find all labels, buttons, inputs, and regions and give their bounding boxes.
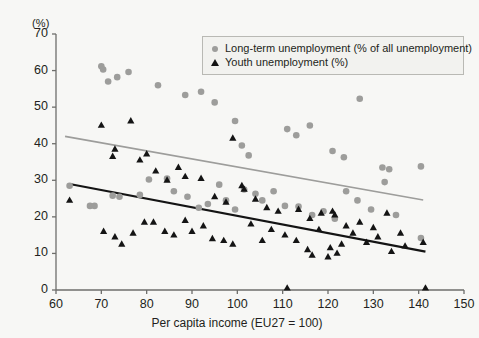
data-point-triangle	[150, 218, 157, 224]
data-point-triangle	[333, 249, 340, 255]
data-point-triangle	[66, 196, 73, 202]
data-point-circle	[307, 122, 314, 129]
data-point-circle	[100, 66, 107, 73]
y-tick-label: 30	[18, 172, 48, 186]
y-tick-label: 20	[18, 209, 48, 223]
legend-label-long-term: Long-term unemployment (% of all unemplo…	[225, 42, 472, 54]
data-point-triangle	[252, 195, 259, 201]
data-point-circle	[381, 179, 388, 186]
data-point-circle	[284, 126, 291, 133]
data-point-triangle	[220, 237, 227, 243]
data-point-circle	[105, 78, 112, 85]
triangle-marker-icon	[210, 57, 221, 68]
data-point-circle	[393, 212, 400, 219]
data-point-triangle	[229, 134, 236, 140]
data-point-circle	[232, 118, 239, 125]
data-point-triangle	[170, 231, 177, 237]
data-point-triangle	[275, 207, 282, 213]
data-point-triangle	[136, 156, 143, 162]
data-point-triangle	[388, 248, 395, 254]
data-point-triangle	[397, 229, 404, 235]
data-point-triangle	[304, 246, 311, 252]
data-point-triangle	[338, 240, 345, 246]
data-point-triangle	[127, 117, 134, 123]
data-point-circle	[293, 132, 300, 139]
data-point-circle	[184, 193, 191, 200]
trendline	[70, 184, 426, 252]
data-point-circle	[211, 99, 218, 106]
data-point-circle	[125, 69, 132, 76]
data-point-triangle	[263, 204, 270, 210]
data-point-triangle	[161, 228, 168, 234]
x-tick-label: 120	[308, 297, 348, 311]
data-point-circle	[239, 142, 246, 149]
data-point-triangle	[356, 218, 363, 224]
data-point-circle	[341, 154, 348, 161]
data-point-triangle	[259, 237, 266, 243]
data-point-triangle	[111, 233, 118, 239]
data-point-triangle	[98, 121, 105, 127]
data-point-triangle	[109, 153, 116, 159]
data-point-triangle	[293, 237, 300, 243]
data-point-circle	[259, 197, 266, 204]
data-point-circle	[109, 192, 116, 199]
data-point-triangle	[141, 218, 148, 224]
data-point-triangle	[129, 229, 136, 235]
data-point-circle	[356, 95, 363, 102]
data-point-triangle	[422, 284, 429, 290]
x-tick-label: 110	[263, 297, 303, 311]
y-tick-label: 40	[18, 136, 48, 150]
x-tick-label: 70	[81, 297, 121, 311]
data-point-circle	[66, 182, 73, 189]
data-point-circle	[418, 163, 425, 170]
data-point-circle	[282, 203, 289, 210]
y-tick-label: 50	[18, 99, 48, 113]
x-tick-label: 140	[399, 297, 439, 311]
circle-marker-icon	[210, 43, 221, 54]
data-point-triangle	[281, 231, 288, 237]
data-point-circle	[198, 88, 205, 95]
y-tick-label: 70	[18, 26, 48, 40]
legend-item-long-term: Long-term unemployment (% of all unemplo…	[210, 41, 456, 55]
data-point-triangle	[182, 173, 189, 179]
data-point-triangle	[401, 242, 408, 248]
data-point-triangle	[175, 164, 182, 170]
data-point-triangle	[200, 222, 207, 228]
data-point-triangle	[315, 226, 322, 232]
data-point-circle	[146, 176, 153, 183]
data-point-triangle	[374, 233, 381, 239]
y-tick-label: 10	[18, 245, 48, 259]
data-point-circle	[232, 206, 239, 213]
data-point-circle	[216, 181, 223, 188]
x-tick-label: 150	[444, 297, 479, 311]
x-tick-label: 80	[127, 297, 167, 311]
data-point-circle	[329, 148, 336, 155]
data-point-triangle	[118, 240, 125, 246]
data-point-circle	[386, 166, 393, 173]
data-point-circle	[91, 203, 98, 210]
series-youth	[66, 117, 429, 291]
x-tick-label: 100	[217, 297, 257, 311]
data-point-triangle	[188, 228, 195, 234]
data-point-triangle	[370, 224, 377, 230]
data-point-circle	[171, 188, 178, 195]
data-point-triangle	[182, 217, 189, 223]
data-point-circle	[196, 204, 203, 211]
data-point-triangle	[343, 222, 350, 228]
data-point-triangle	[100, 228, 107, 234]
data-point-circle	[114, 74, 121, 81]
data-point-triangle	[229, 240, 236, 246]
data-point-circle	[343, 188, 350, 195]
data-point-triangle	[284, 284, 291, 290]
y-tick-label: 0	[18, 282, 48, 296]
chart-legend: Long-term unemployment (% of all unemplo…	[202, 36, 464, 75]
data-point-triangle	[211, 193, 218, 199]
data-point-triangle	[268, 226, 275, 232]
x-tick-label: 130	[353, 297, 393, 311]
data-point-circle	[270, 188, 277, 195]
series-long-term	[66, 63, 424, 241]
data-point-circle	[116, 193, 123, 200]
data-point-triangle	[197, 174, 204, 180]
data-point-triangle	[209, 235, 216, 241]
data-point-circle	[182, 92, 189, 99]
